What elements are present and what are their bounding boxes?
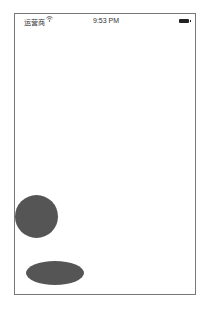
status-time: 9:53 PM (93, 17, 119, 24)
wifi-icon (46, 16, 53, 23)
status-bar: 运营商 9:53 PM (15, 14, 195, 28)
battery-icon (179, 19, 189, 23)
carrier-label: 运营商 (24, 17, 45, 27)
ellipse-shape[interactable] (26, 261, 84, 285)
phone-screen: 运营商 9:53 PM (14, 13, 196, 295)
circle-shape[interactable] (15, 195, 58, 238)
